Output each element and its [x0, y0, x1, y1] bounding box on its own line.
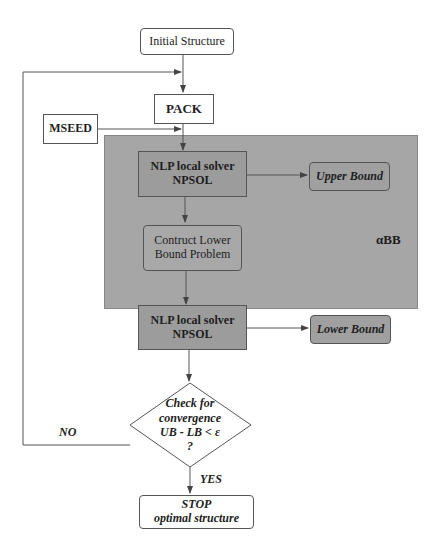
convergence-check-text: Check for convergence UB - LB < ε ? — [145, 392, 235, 458]
upper-bound-box: Upper Bound — [309, 162, 390, 191]
nlp-upper-line1: NLP local solver — [151, 160, 235, 174]
nlp-lower-line2: NPSOL — [172, 328, 212, 342]
stop-line1: STOP — [182, 498, 212, 512]
check-line3: UB - LB < ε — [160, 425, 220, 439]
pack-label: PACK — [166, 102, 202, 117]
construct-line2: Bound Problem — [155, 248, 231, 262]
mseed-box: MSEED — [43, 114, 98, 144]
initial-structure-label: Initial Structure — [149, 35, 225, 49]
lower-bound-label: Lower Bound — [317, 323, 385, 337]
no-label: NO — [59, 425, 76, 440]
construct-lower-bound-box: Contruct Lower Bound Problem — [143, 225, 242, 271]
construct-line1: Contruct Lower — [154, 234, 230, 248]
lower-bound-box: Lower Bound — [310, 315, 391, 344]
check-line2: convergence — [159, 411, 221, 425]
check-line1: Check for — [166, 396, 215, 410]
stop-line2: optimal structure — [154, 512, 239, 526]
check-line4: ? — [187, 439, 193, 453]
stop-box: STOP optimal structure — [139, 495, 254, 529]
abb-label: αBB — [376, 232, 401, 248]
yes-label: YES — [200, 472, 222, 487]
nlp-solver-lower-box: NLP local solver NPSOL — [138, 305, 247, 350]
flow-arrows — [0, 0, 437, 548]
mseed-label: MSEED — [49, 122, 92, 136]
nlp-lower-line1: NLP local solver — [151, 314, 235, 328]
initial-structure-box: Initial Structure — [140, 28, 234, 55]
nlp-upper-line2: NPSOL — [172, 174, 212, 188]
pack-box: PACK — [154, 94, 214, 124]
upper-bound-label: Upper Bound — [316, 170, 383, 184]
nlp-solver-upper-box: NLP local solver NPSOL — [138, 151, 247, 197]
